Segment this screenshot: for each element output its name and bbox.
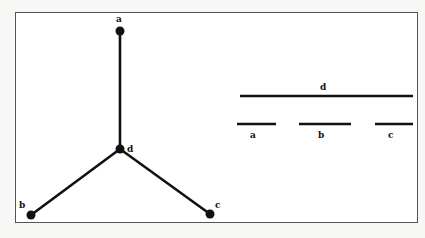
diagram-canvas: a d b c d a b c xyxy=(0,0,425,238)
node-c xyxy=(206,210,215,219)
edge-d-c xyxy=(120,149,210,214)
node-label-b: b xyxy=(19,200,25,210)
node-label-c: c xyxy=(215,200,221,210)
node-b xyxy=(27,211,36,220)
interval-lines xyxy=(237,96,413,124)
node-d xyxy=(116,145,125,154)
node-a xyxy=(116,27,125,36)
interval-label-d: d xyxy=(320,82,327,92)
edge-d-b xyxy=(31,149,120,215)
interval-label-a: a xyxy=(250,130,256,140)
node-label-a: a xyxy=(116,14,122,24)
tree-graph xyxy=(31,31,210,215)
interval-label-b: b xyxy=(318,130,324,140)
node-label-d: d xyxy=(127,144,134,154)
interval-label-c: c xyxy=(388,130,394,140)
